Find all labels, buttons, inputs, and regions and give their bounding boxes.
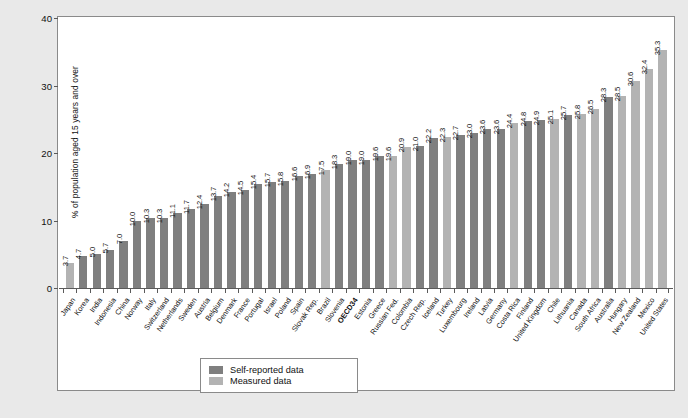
bar-slot[interactable]: 35.3 — [656, 18, 669, 288]
bar-slot[interactable]: 30.6 — [629, 18, 642, 288]
x-axis-label-slot: Chile — [548, 294, 561, 360]
bar-slot[interactable]: 26.5 — [588, 18, 601, 288]
bar-slot[interactable]: 16.9 — [305, 18, 318, 288]
bar-slot[interactable]: 22.7 — [454, 18, 467, 288]
bar[interactable]: 4.7 — [79, 256, 87, 288]
bar[interactable]: 23.6 — [497, 129, 505, 288]
x-axis-tickmark — [157, 289, 170, 293]
bar-slot[interactable]: 14.2 — [225, 18, 238, 288]
bar[interactable]: 28.3 — [604, 97, 612, 288]
bar-slot[interactable]: 15.8 — [279, 18, 292, 288]
bar[interactable]: 12.4 — [200, 204, 208, 288]
bar[interactable]: 24.8 — [524, 121, 532, 288]
bar[interactable]: 22.3 — [443, 137, 451, 288]
bar-slot[interactable]: 23.6 — [481, 18, 494, 288]
bar[interactable]: 30.6 — [631, 81, 639, 288]
bar[interactable]: 5.0 — [93, 254, 101, 288]
bar[interactable]: 18.3 — [335, 164, 343, 288]
bar-slot[interactable]: 20.9 — [400, 18, 413, 288]
bar[interactable]: 26.5 — [591, 109, 599, 288]
bar[interactable]: 11.7 — [187, 209, 195, 288]
bar-slot[interactable]: 25.1 — [548, 18, 561, 288]
bar[interactable]: 16.6 — [295, 176, 303, 288]
bar[interactable]: 3.7 — [66, 263, 74, 288]
bar-slot[interactable]: 15.4 — [252, 18, 265, 288]
x-axis-tickmark — [103, 289, 116, 293]
bar[interactable]: 19.0 — [362, 160, 370, 288]
bar[interactable]: 5.7 — [106, 250, 114, 288]
bar-slot[interactable]: 25.8 — [575, 18, 588, 288]
bar[interactable]: 10.0 — [133, 221, 141, 289]
bar[interactable]: 25.7 — [564, 115, 572, 288]
bar[interactable]: 15.4 — [254, 184, 262, 288]
x-axis-label-slot: Netherlands — [171, 294, 184, 360]
x-axis-tickmark — [211, 289, 224, 293]
bar[interactable]: 14.5 — [241, 190, 249, 288]
bar-value-label: 16.9 — [303, 165, 312, 179]
bar[interactable]: 22.2 — [429, 138, 437, 288]
bar-slot[interactable]: 23.6 — [494, 18, 507, 288]
x-axis-tickmark — [252, 289, 265, 293]
bar[interactable]: 24.4 — [510, 123, 518, 288]
bar-slot[interactable]: 11.1 — [171, 18, 184, 288]
bar[interactable]: 23.6 — [483, 129, 491, 288]
bar-slot[interactable]: 7.0 — [117, 18, 130, 288]
bar[interactable]: 15.7 — [268, 182, 276, 288]
x-axis-label-slot: Czech Rep. — [413, 294, 426, 360]
bar-slot[interactable]: 10.3 — [144, 18, 157, 288]
bar-value-label: 4.7 — [74, 249, 83, 259]
bar[interactable]: 19.6 — [375, 156, 383, 288]
bar-slot[interactable]: 23.0 — [467, 18, 480, 288]
bar-value-label: 12.4 — [195, 195, 204, 209]
bar[interactable]: 22.7 — [456, 135, 464, 288]
bar-slot[interactable]: 24.9 — [534, 18, 547, 288]
chart-root: % of population aged 15 years and over 0… — [0, 0, 688, 418]
bar-slot[interactable]: 11.7 — [184, 18, 197, 288]
bar-slot[interactable]: 24.4 — [507, 18, 520, 288]
bar[interactable]: 32.4 — [645, 69, 653, 288]
bar[interactable]: 14.2 — [227, 192, 235, 288]
bar[interactable]: 20.9 — [402, 147, 410, 288]
bar[interactable]: 11.1 — [173, 213, 181, 288]
bar[interactable]: 28.5 — [618, 96, 626, 288]
bar-slot[interactable]: 19.6 — [386, 18, 399, 288]
bar-value-label: 25.8 — [573, 105, 582, 119]
bar-slot[interactable]: 14.5 — [238, 18, 251, 288]
bar-slot[interactable]: 13.7 — [211, 18, 224, 288]
bar-slot[interactable]: 10.0 — [130, 18, 143, 288]
bar-slot[interactable]: 3.7 — [63, 18, 76, 288]
bar-value-label: 11.1 — [168, 204, 177, 218]
bar[interactable]: 23.0 — [470, 133, 478, 288]
bar[interactable]: 7.0 — [119, 241, 127, 288]
x-axis-tickmark — [615, 289, 628, 293]
bar[interactable]: 24.9 — [537, 120, 545, 288]
bar-slot[interactable]: 16.6 — [292, 18, 305, 288]
bar-slot[interactable]: 21.0 — [413, 18, 426, 288]
x-axis-label-slot: India — [90, 294, 103, 360]
bar-slot[interactable]: 5.7 — [103, 18, 116, 288]
bar-slot[interactable]: 32.4 — [642, 18, 655, 288]
bar-slot[interactable]: 28.5 — [615, 18, 628, 288]
bar-slot[interactable]: 10.3 — [157, 18, 170, 288]
bar[interactable]: 19.0 — [348, 160, 356, 288]
bar-slot[interactable]: 28.3 — [602, 18, 615, 288]
bar[interactable]: 19.6 — [389, 156, 397, 288]
bar-slot[interactable]: 17.5 — [319, 18, 332, 288]
bar[interactable]: 35.3 — [658, 50, 666, 288]
bar-slot[interactable]: 22.3 — [440, 18, 453, 288]
bar[interactable]: 16.9 — [308, 174, 316, 288]
bar-slot[interactable]: 24.8 — [521, 18, 534, 288]
bar-slot[interactable]: 15.7 — [265, 18, 278, 288]
bar[interactable]: 10.3 — [146, 218, 154, 288]
bar[interactable]: 17.5 — [321, 170, 329, 288]
bar[interactable]: 25.1 — [550, 119, 558, 288]
bar[interactable]: 13.7 — [214, 196, 222, 288]
bar[interactable]: 25.8 — [577, 114, 585, 288]
bar[interactable]: 10.3 — [160, 218, 168, 288]
bar-slot[interactable]: 22.2 — [427, 18, 440, 288]
bar-slot[interactable]: 25.7 — [561, 18, 574, 288]
x-axis-tickmark — [130, 289, 143, 293]
bar-slot[interactable]: 12.4 — [198, 18, 211, 288]
bar[interactable]: 21.0 — [416, 146, 424, 288]
bar[interactable]: 15.8 — [281, 181, 289, 288]
